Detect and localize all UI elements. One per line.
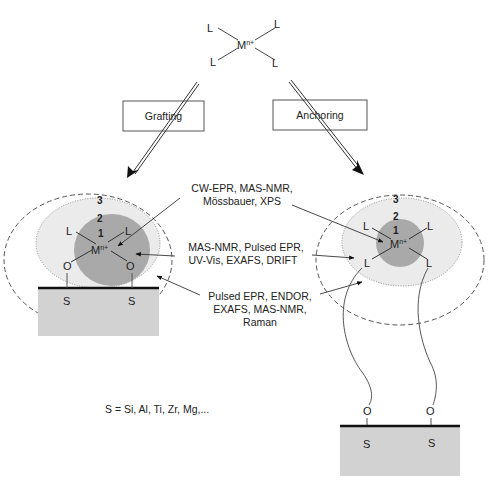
precursor-ligand: L bbox=[207, 22, 213, 34]
precursor-complex: L L L L Mn+ bbox=[207, 18, 280, 69]
tether-chain bbox=[343, 268, 371, 405]
grafted-oxygen: O bbox=[63, 260, 72, 272]
anchored-support-atom: S bbox=[428, 437, 435, 449]
precursor-ligand: L bbox=[274, 18, 280, 30]
anchored-support-atom: S bbox=[363, 438, 370, 450]
precursor-ligand: L bbox=[210, 56, 216, 68]
grafted-support-atom: S bbox=[63, 295, 70, 307]
precursor-metal: Mn+ bbox=[237, 39, 254, 51]
anchored-ligand: L bbox=[427, 220, 433, 232]
zone-1-number: 1 bbox=[393, 225, 399, 236]
anchored-ligand: L bbox=[426, 257, 432, 269]
svg-text:Pulsed EPR, ENDOR,: Pulsed EPR, ENDOR, bbox=[208, 290, 311, 302]
zone-3-number: 3 bbox=[97, 195, 103, 206]
grafted-support-atom: S bbox=[128, 295, 135, 307]
zone-3-number: 3 bbox=[393, 194, 399, 205]
anchored-oxygen: O bbox=[426, 405, 435, 417]
technique-label-zone1: CW-EPR, MAS-NMR, Mössbauer, XPS bbox=[191, 182, 292, 207]
tether-chain bbox=[418, 268, 436, 405]
anchoring-label: Anchoring bbox=[296, 109, 343, 121]
svg-text:MAS-NMR, Pulsed EPR,: MAS-NMR, Pulsed EPR, bbox=[188, 241, 304, 253]
anchored-ligand: L bbox=[363, 220, 369, 232]
zone-2-number: 2 bbox=[97, 213, 103, 224]
anchored-oxygen: O bbox=[363, 405, 372, 417]
anchored-complex: 3 2 1 L L L L Mn+ O O S S bbox=[316, 194, 484, 476]
svg-text:UV-Vis, EXAFS, DRIFT: UV-Vis, EXAFS, DRIFT bbox=[189, 254, 298, 266]
svg-text:EXAFS, MAS-NMR,: EXAFS, MAS-NMR, bbox=[213, 303, 306, 315]
support-legend: S = Si, Al, Ti, Zr, Mg,... bbox=[105, 403, 209, 415]
precursor-ligand: L bbox=[272, 57, 278, 69]
grafted-oxygen: O bbox=[126, 260, 135, 272]
svg-text:Mössbauer, XPS: Mössbauer, XPS bbox=[203, 195, 281, 207]
grafted-ligand: L bbox=[66, 225, 72, 237]
zone-1-number: 1 bbox=[98, 228, 104, 239]
svg-text:CW-EPR, MAS-NMR,: CW-EPR, MAS-NMR, bbox=[191, 182, 292, 194]
zone-2-number: 2 bbox=[393, 211, 399, 222]
diagram-canvas: L L L L Mn+ Grafting Anchoring 3 2 1 L L… bbox=[0, 0, 492, 495]
grafted-ligand: L bbox=[125, 225, 131, 237]
technique-label-zone3: Pulsed EPR, ENDOR, EXAFS, MAS-NMR, Raman bbox=[208, 290, 311, 328]
technique-label-zone2: MAS-NMR, Pulsed EPR, UV-Vis, EXAFS, DRIF… bbox=[188, 241, 304, 266]
anchored-support bbox=[340, 426, 460, 476]
grafted-support bbox=[38, 288, 159, 336]
svg-text:Raman: Raman bbox=[243, 316, 277, 328]
grafted-complex: 3 2 1 L L Mn+ O O S S bbox=[4, 194, 172, 336]
zone-1-region bbox=[74, 214, 150, 286]
anchored-ligand: L bbox=[364, 257, 370, 269]
